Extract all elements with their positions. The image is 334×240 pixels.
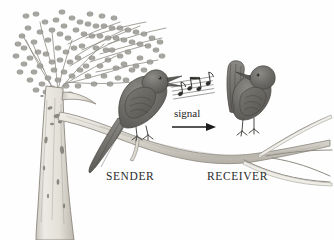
illustration-figure: SENDER RECEIVER signal	[0, 0, 334, 240]
sender-bird	[89, 70, 182, 173]
tree-trunk	[36, 86, 96, 240]
signal-label: signal	[174, 107, 200, 119]
receiver-label: RECEIVER	[207, 170, 268, 182]
receiver-bird	[227, 61, 275, 136]
scene-illustration	[0, 0, 334, 240]
sender-label: SENDER	[106, 170, 154, 182]
signal-arrow	[172, 123, 216, 131]
